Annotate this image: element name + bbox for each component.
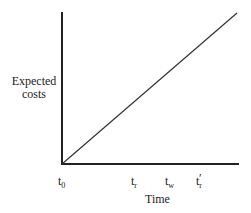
x-tick-tw: tw xyxy=(165,175,174,192)
x-tick-tr-prime: tr′ xyxy=(196,175,205,192)
y-axis-label: Expected costs xyxy=(11,75,57,101)
x-tick-t0: t0 xyxy=(58,175,65,192)
x-tick-tr: tr xyxy=(131,175,137,192)
expected-cost-line xyxy=(62,13,237,164)
x-axis-label: Time xyxy=(145,193,170,206)
chart-canvas xyxy=(0,0,251,213)
y-axis-label-line-2: costs xyxy=(11,88,57,101)
